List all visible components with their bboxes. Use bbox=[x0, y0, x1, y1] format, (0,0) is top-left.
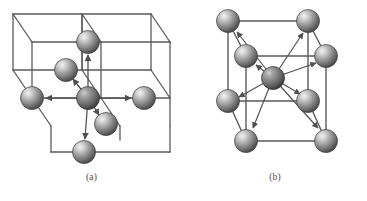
neighbor-top-atom bbox=[77, 31, 100, 54]
figure-root: (a) bbox=[0, 0, 367, 201]
corner-back-top-right-atom bbox=[297, 10, 320, 33]
corner-back-top-left-atom bbox=[217, 10, 240, 33]
corner-front-bottom-right-atom bbox=[315, 130, 338, 153]
cube-depth-top-left-edge bbox=[13, 14, 32, 42]
simple-cubic-diagram bbox=[0, 0, 183, 171]
corner-back-bottom-right-atom bbox=[297, 90, 320, 113]
atoms-group bbox=[21, 31, 156, 164]
caption-panel-a: (a) bbox=[0, 171, 183, 183]
neighbor-left-atom bbox=[21, 87, 44, 110]
caption-panel-b: (b) bbox=[183, 171, 367, 183]
body-center-atom bbox=[262, 67, 285, 90]
neighbor-front-atom bbox=[95, 113, 118, 136]
corner-front-bottom-left-atom bbox=[235, 130, 258, 153]
corner-back-bottom-left-atom bbox=[217, 90, 240, 113]
center-atom bbox=[77, 87, 100, 110]
neighbor-back-atom bbox=[55, 59, 78, 82]
panel-simple-cubic: (a) bbox=[0, 0, 183, 201]
cube-depth-top-right-edge bbox=[151, 14, 170, 42]
corner-front-top-right-atom bbox=[315, 45, 338, 68]
atoms-group bbox=[217, 10, 338, 153]
panel-body-centred-cubic: (b) bbox=[183, 0, 367, 201]
body-centred-cubic-diagram bbox=[183, 0, 367, 171]
neighbor-right-atom bbox=[133, 87, 156, 110]
corner-front-top-left-atom bbox=[235, 45, 258, 68]
neighbor-bottom-atom bbox=[73, 141, 96, 164]
